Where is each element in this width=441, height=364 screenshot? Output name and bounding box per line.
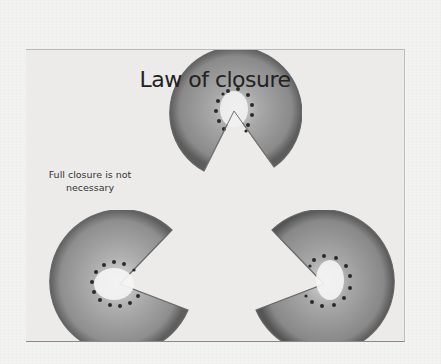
slide: Law of closure Full closure is not neces… xyxy=(26,49,405,342)
kiwi-slice-bottom-right xyxy=(244,210,404,342)
slide-title: Law of closure xyxy=(26,67,404,92)
kiwi-slice-bottom-left xyxy=(38,210,198,342)
slide-note: Full closure is not necessary xyxy=(40,168,140,194)
